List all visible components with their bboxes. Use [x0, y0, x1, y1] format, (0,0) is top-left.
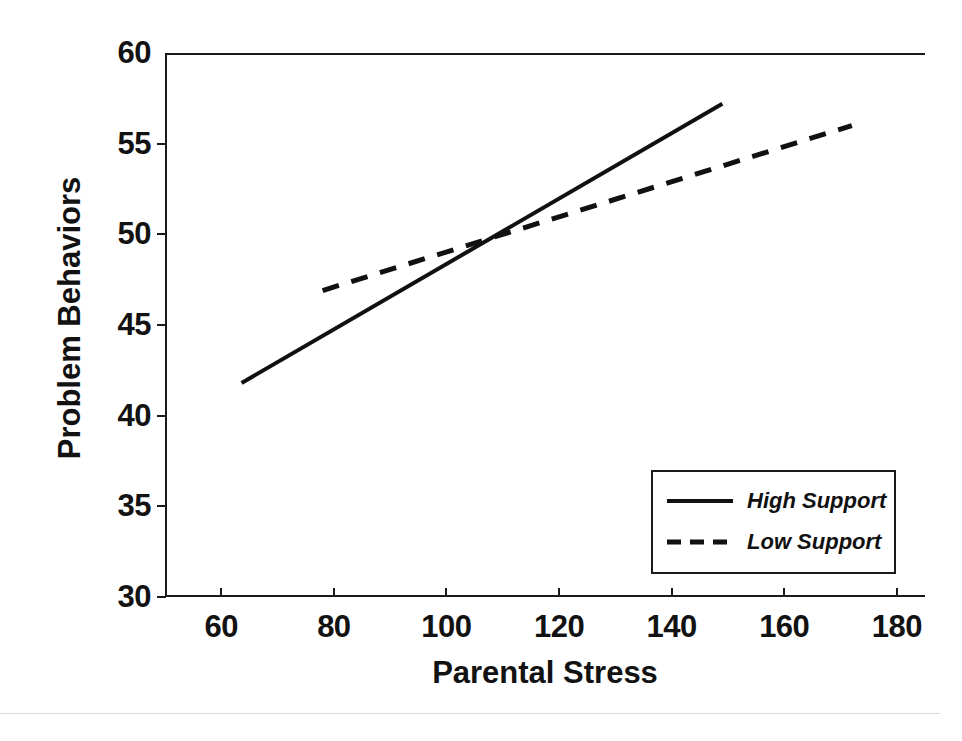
y-tick-label-45: 45 — [118, 307, 151, 343]
x-tick-label-180: 180 — [872, 609, 922, 645]
y-tick-label-60: 60 — [118, 35, 151, 71]
legend-label-high-support: High Support — [747, 488, 886, 514]
legend-swatch-solid — [667, 494, 733, 508]
legend-box: High Support Low Support — [651, 470, 896, 574]
scan-page-rule — [0, 713, 940, 714]
x-tick-label-80: 80 — [317, 609, 350, 645]
x-tick-label-160: 160 — [759, 609, 809, 645]
y-tick-label-55: 55 — [118, 126, 151, 162]
series-line-low-support — [323, 126, 852, 291]
y-tick-label-35: 35 — [118, 488, 151, 524]
legend-entry-low-support: Low Support — [653, 522, 894, 562]
y-axis-title: Problem Behaviors — [52, 108, 88, 528]
figure-canvas: Problem Behaviors 30354045505560 6080100… — [0, 0, 962, 741]
x-axis-title: Parental Stress — [165, 655, 925, 691]
x-tick-label-100: 100 — [421, 609, 471, 645]
x-tick-label-60: 60 — [205, 609, 238, 645]
scan-artifact-top — [95, 0, 215, 4]
x-tick-label-120: 120 — [534, 609, 584, 645]
y-tick-label-40: 40 — [118, 398, 151, 434]
legend-swatch-dashed — [667, 535, 733, 549]
x-tick-label-140: 140 — [647, 609, 697, 645]
y-tick-label-30: 30 — [118, 579, 151, 615]
y-tick-label-50: 50 — [118, 216, 151, 252]
legend-entry-high-support: High Support — [653, 481, 894, 521]
legend-label-low-support: Low Support — [747, 529, 881, 555]
